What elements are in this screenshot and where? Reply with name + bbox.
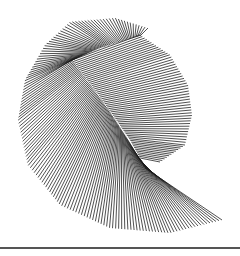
spiral-line xyxy=(120,124,190,126)
spiral-line xyxy=(75,22,108,46)
horizontal-rule xyxy=(0,247,240,249)
spiral-fans xyxy=(18,18,222,233)
spiral-line xyxy=(123,130,188,131)
spiral-line xyxy=(135,24,136,37)
spiral-line xyxy=(121,126,189,127)
spiral-line-drawing xyxy=(0,0,240,256)
spiral-line xyxy=(79,21,111,45)
